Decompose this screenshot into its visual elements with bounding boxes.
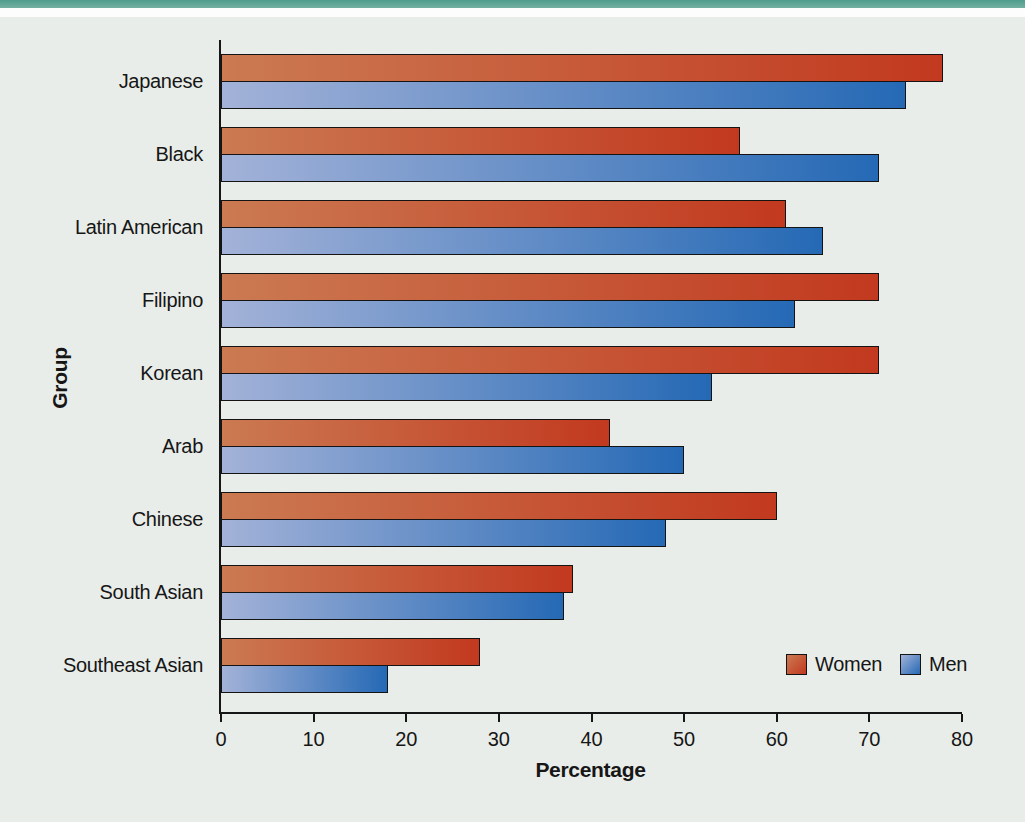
x-tick-70 [868, 714, 870, 722]
x-tick-label-50: 50 [673, 728, 695, 751]
x-tick-label-70: 70 [858, 728, 880, 751]
x-tick-60 [776, 714, 778, 722]
category-label-japanese: Japanese [119, 70, 203, 93]
category-label-korean: Korean [140, 362, 203, 385]
legend-label-women: Women [815, 653, 882, 676]
bar-women-latin-american [221, 200, 786, 228]
bar-women-black [221, 127, 740, 155]
x-tick-label-80: 80 [951, 728, 973, 751]
bar-women-korean [221, 346, 879, 374]
figure-background: Group JapaneseBlackLatin AmericanFilipin… [0, 0, 1025, 822]
category-label-filipino: Filipino [142, 289, 203, 312]
bar-women-filipino [221, 273, 879, 301]
x-tick-label-20: 20 [395, 728, 417, 751]
bar-men-arab [221, 446, 684, 474]
category-label-arab: Arab [162, 435, 203, 458]
legend: Women Men [786, 653, 967, 676]
x-tick-label-0: 0 [215, 728, 226, 751]
legend-swatch-women [786, 654, 807, 675]
category-label-chinese: Chinese [132, 508, 203, 531]
bar-men-south-asian [221, 592, 564, 620]
x-tick-10 [313, 714, 315, 722]
category-label-southeast-asian: Southeast Asian [63, 654, 203, 677]
x-axis-title: Percentage [219, 758, 962, 782]
bar-women-southeast-asian [221, 638, 480, 666]
category-label-south-asian: South Asian [100, 581, 203, 604]
category-labels: JapaneseBlackLatin AmericanFilipinoKorea… [0, 40, 211, 712]
bar-men-korean [221, 373, 712, 401]
bar-men-filipino [221, 300, 795, 328]
bar-men-southeast-asian [221, 665, 388, 693]
x-tick-label-10: 10 [303, 728, 325, 751]
bar-men-chinese [221, 519, 666, 547]
bar-women-japanese [221, 54, 943, 82]
bar-women-arab [221, 419, 610, 447]
x-tick-40 [591, 714, 593, 722]
bar-men-japanese [221, 81, 906, 109]
x-tick-80 [961, 714, 963, 722]
x-tick-label-30: 30 [488, 728, 510, 751]
bar-men-black [221, 154, 879, 182]
x-tick-50 [683, 714, 685, 722]
category-label-black: Black [156, 143, 203, 166]
legend-label-men: Men [929, 653, 967, 676]
category-label-latin-american: Latin American [75, 216, 203, 239]
x-tick-label-40: 40 [580, 728, 602, 751]
legend-swatch-men [900, 654, 921, 675]
bar-chart: Group JapaneseBlackLatin AmericanFilipin… [0, 0, 1025, 822]
plot-area: 01020304050607080 [219, 40, 962, 714]
bar-women-chinese [221, 492, 777, 520]
x-tick-label-60: 60 [766, 728, 788, 751]
x-tick-20 [405, 714, 407, 722]
bar-women-south-asian [221, 565, 573, 593]
bar-men-latin-american [221, 227, 823, 255]
x-tick-0 [220, 714, 222, 722]
x-tick-30 [498, 714, 500, 722]
